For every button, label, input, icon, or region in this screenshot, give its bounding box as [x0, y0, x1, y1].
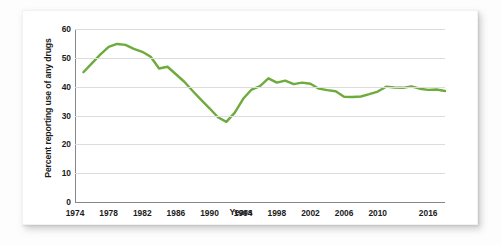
y-axis-title: Percent reporting use of any drugs — [43, 23, 53, 193]
y-tick-label-50: 50 — [43, 54, 71, 62]
y-tick-label-30: 30 — [43, 112, 71, 120]
series-line-0 — [83, 44, 445, 122]
y-tick-label-10: 10 — [43, 169, 71, 177]
y-tick-label-60: 60 — [43, 25, 71, 33]
gridline-y-20 — [75, 144, 445, 145]
gridline-y-10 — [75, 173, 445, 174]
y-tick-label-20: 20 — [43, 140, 71, 148]
gridline-y-50 — [75, 58, 445, 59]
gridline-y-30 — [75, 116, 445, 117]
plot-area: 0102030405060197419781982198619901994199… — [75, 29, 445, 202]
gridline-y-60 — [75, 29, 445, 30]
x-tick-label-2016: 2016 — [408, 209, 448, 217]
x-tick-label-2010: 2010 — [358, 209, 398, 217]
gridline-y-40 — [75, 87, 445, 88]
y-tick-label-40: 40 — [43, 83, 71, 91]
y-tick-label-0: 0 — [43, 198, 71, 206]
figure-page: Percent reporting use of any drugs Years… — [0, 0, 501, 245]
chart-card: Percent reporting use of any drugs Years… — [22, 10, 478, 225]
